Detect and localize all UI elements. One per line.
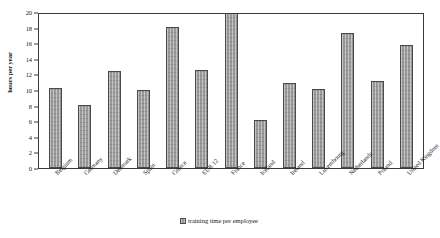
bar-slot	[187, 14, 216, 168]
y-axis-title: hours per year	[6, 37, 13, 109]
bar[interactable]	[341, 33, 354, 168]
bar[interactable]	[78, 105, 91, 168]
y-axis-tick-label: 18	[26, 25, 32, 32]
bar-slot	[333, 14, 362, 168]
y-axis-tick-label: 14	[26, 57, 32, 64]
x-axis-slot: Denmark	[99, 170, 128, 220]
bar[interactable]	[283, 83, 296, 168]
x-axis-slot: EUR 12	[187, 170, 216, 220]
bars-layer	[39, 14, 423, 168]
bar[interactable]	[166, 27, 179, 168]
bar[interactable]	[49, 88, 62, 168]
x-axis-slot: Netherlands	[334, 170, 363, 220]
x-axis-slot: Poland	[363, 170, 392, 220]
x-axis-slot: Iceland	[246, 170, 275, 220]
legend-label: training time per employee	[188, 218, 258, 225]
bar-slot	[216, 14, 245, 168]
legend-swatch-icon	[180, 218, 186, 224]
y-axis-tick-label: 0	[29, 166, 32, 173]
x-axis-slot: Spain	[128, 170, 157, 220]
plot-area	[38, 13, 424, 169]
y-axis-tick-label: 12	[26, 72, 32, 79]
bar-slot	[129, 14, 158, 168]
x-axis-slot: Germany	[69, 170, 98, 220]
bar-slot	[304, 14, 333, 168]
bar-slot	[275, 14, 304, 168]
y-axis-tick-label: 10	[26, 88, 32, 95]
chart-legend: training time per employee	[0, 218, 438, 225]
x-axis-slot: Luxembourg	[305, 170, 334, 220]
y-axis-tick-label: 16	[26, 41, 32, 48]
bar-slot	[246, 14, 275, 168]
y-axis-tick-label: 4	[29, 135, 32, 142]
bar[interactable]	[312, 89, 325, 168]
y-axis-tick-label: 6	[29, 119, 32, 126]
bar[interactable]	[195, 70, 208, 168]
bar[interactable]	[137, 90, 150, 168]
x-axis-slot: Belgium	[40, 170, 69, 220]
bar-slot	[70, 14, 99, 168]
bar-slot	[363, 14, 392, 168]
bar[interactable]	[225, 13, 238, 168]
bar-slot	[99, 14, 128, 168]
bar-slot	[41, 14, 70, 168]
x-axis-slot: Greece	[158, 170, 187, 220]
bar[interactable]	[254, 120, 267, 168]
bar-slot	[392, 14, 421, 168]
bar-slot	[158, 14, 187, 168]
x-axis-slot: France	[216, 170, 245, 220]
y-axis-tick-label: 2	[29, 150, 32, 157]
x-axis-slot: United Kingdom	[393, 170, 422, 220]
x-axis-slot: Ireland	[275, 170, 304, 220]
bar[interactable]	[400, 45, 413, 168]
y-axis-tick-label: 20	[26, 10, 32, 17]
bar[interactable]	[108, 71, 121, 169]
x-axis: BelgiumGermanyDenmarkSpainGreeceEUR 12Fr…	[38, 170, 424, 220]
y-axis: hours per year 02468101214161820	[0, 13, 38, 169]
y-axis-tick-label: 8	[29, 103, 32, 110]
